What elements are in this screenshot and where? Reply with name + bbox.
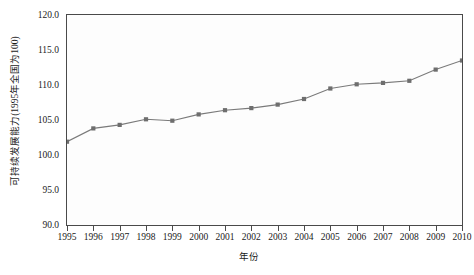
data-point-marker <box>170 119 174 123</box>
x-axis-tick-mark <box>146 226 147 231</box>
x-axis-tick-label: 2001 <box>216 232 235 242</box>
x-axis-tick-mark <box>199 226 200 231</box>
x-axis-tick-label: 1998 <box>137 232 156 242</box>
x-axis-tick-mark <box>93 226 94 231</box>
y-axis-tick-label: 120.0 <box>0 10 66 20</box>
x-axis-tick-label: 2009 <box>426 232 445 242</box>
plot-inner <box>67 15 462 225</box>
data-point-marker <box>223 108 227 112</box>
x-axis-tick-mark <box>436 226 437 231</box>
x-axis-title-text: 年份 <box>239 252 259 262</box>
x-axis-tick-label: 2003 <box>268 232 287 242</box>
x-axis-tick-label: 1995 <box>58 232 77 242</box>
data-series-line <box>67 15 462 225</box>
y-axis-tick-label: 105.0 <box>0 115 66 125</box>
data-point-marker <box>381 81 385 85</box>
data-point-marker <box>302 97 306 101</box>
x-axis-tick-label: 2006 <box>347 232 366 242</box>
y-axis-tick-label: 95.0 <box>0 185 66 195</box>
y-axis-tick-label: 110.0 <box>0 80 66 90</box>
x-axis-tick-label: 1999 <box>163 232 182 242</box>
y-axis-tick-label: 90.0 <box>0 220 66 230</box>
x-axis-tick-mark <box>304 226 305 231</box>
x-axis-tick-mark <box>409 226 410 231</box>
data-point-marker <box>407 79 411 83</box>
data-point-marker <box>249 106 253 110</box>
chart-container: 可持续发展能力(1995年全国为100) 90.095.0100.0105.01… <box>0 0 474 275</box>
x-axis-tick-label: 1997 <box>110 232 129 242</box>
x-axis-tick-mark <box>357 226 358 231</box>
x-axis-tick-label: 2000 <box>189 232 208 242</box>
x-axis-tick-mark <box>251 226 252 231</box>
x-axis-tick-mark <box>383 226 384 231</box>
data-point-marker <box>460 58 463 62</box>
x-axis-tick-mark <box>67 226 68 231</box>
y-axis-tick-label: 115.0 <box>0 45 66 55</box>
x-axis-tick-label: 2005 <box>321 232 340 242</box>
data-point-marker <box>355 82 359 86</box>
data-point-marker <box>91 126 95 130</box>
series-line <box>67 61 462 142</box>
data-point-marker <box>328 86 332 90</box>
x-axis-tick-label: 2010 <box>453 232 472 242</box>
y-axis-tick-label: 100.0 <box>0 150 66 160</box>
x-axis-tick-label: 2007 <box>374 232 393 242</box>
data-point-marker <box>66 140 69 144</box>
data-point-marker <box>434 68 438 72</box>
x-axis-tick-mark <box>462 226 463 231</box>
x-axis-tick-mark <box>330 226 331 231</box>
x-axis-title: 年份 <box>0 249 474 263</box>
x-axis-tick-label: 1996 <box>84 232 103 242</box>
x-axis-tick-label: 2008 <box>400 232 419 242</box>
data-point-marker <box>118 123 122 127</box>
x-axis-tick-mark <box>278 226 279 231</box>
x-axis-tick-label: 2002 <box>242 232 261 242</box>
x-axis-tick-mark <box>172 226 173 231</box>
x-axis-tick-mark <box>120 226 121 231</box>
x-axis-tick-mark <box>225 226 226 231</box>
data-point-marker <box>144 117 148 121</box>
plot-area <box>66 14 463 226</box>
data-point-marker <box>276 103 280 107</box>
data-point-marker <box>197 112 201 116</box>
x-axis-tick-label: 2004 <box>295 232 314 242</box>
